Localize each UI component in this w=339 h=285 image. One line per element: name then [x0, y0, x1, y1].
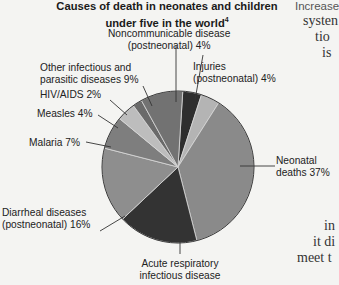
label-neonatal: Neonataldeaths 37%: [276, 155, 330, 179]
side-text-line: meet t: [297, 250, 332, 266]
side-text-line: it di: [313, 234, 335, 250]
label-injuries: Injuries(postneonatal) 4%: [193, 61, 276, 85]
side-text-line: is: [322, 45, 331, 61]
side-text-line: tio: [315, 29, 330, 45]
label-malaria: Malaria 7%: [29, 137, 80, 149]
pie-slices: [102, 91, 254, 243]
label-diarrheal: Diarrheal diseases(postneonatal) 16%: [2, 207, 90, 231]
label-noncommunicable: Noncommunicable disease(postneonatal) 4%: [108, 28, 230, 52]
label-measles: Measles 4%: [37, 108, 93, 120]
label-hiv-aids: HIV/AIDS 2%: [40, 89, 101, 101]
label-other-infectious: Other infectious andparasitic diseases 9…: [40, 62, 139, 86]
side-text-heading: Increase: [295, 0, 339, 12]
side-text-line: systen: [303, 13, 338, 29]
label-acute-respiratory: Acute respiratoryinfectious disease: [128, 258, 232, 282]
side-text-line: in: [324, 218, 335, 234]
